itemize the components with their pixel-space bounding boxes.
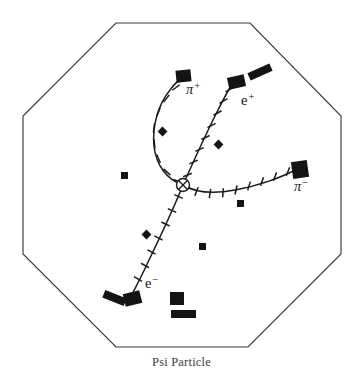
noise-hit-left-center bbox=[121, 172, 128, 179]
hit-bottom-bar bbox=[171, 310, 196, 318]
figure-caption: Psi Particle bbox=[0, 355, 363, 370]
tick-pi-plus-3 bbox=[154, 139, 155, 148]
noise-hit-lower-center bbox=[199, 243, 206, 250]
detector-event-display: π+e+π−e− bbox=[0, 0, 363, 383]
hit-bottom-square bbox=[170, 292, 184, 305]
psi-particle-event-figure: π+e+π−e− Psi Particle bbox=[0, 0, 363, 383]
interaction-vertex-marker bbox=[177, 179, 190, 192]
noise-hit-below-pi-minus bbox=[237, 200, 244, 207]
tick-pi-minus-2 bbox=[223, 188, 224, 197]
